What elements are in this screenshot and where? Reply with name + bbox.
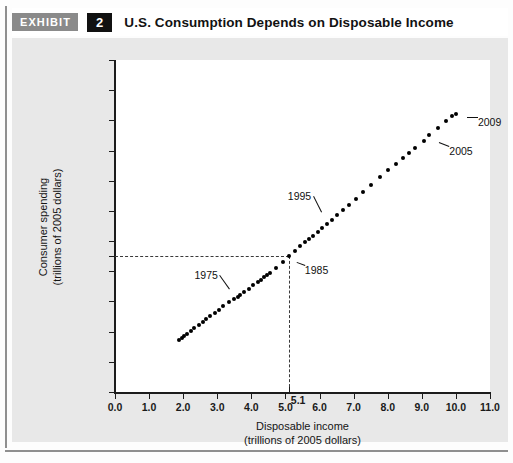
x-tick-label: 1.0 bbox=[142, 401, 157, 413]
annotation-1975: 1975 bbox=[194, 269, 217, 281]
x-tick-label: 11.0 bbox=[480, 401, 500, 413]
data-point bbox=[386, 168, 390, 172]
data-point bbox=[217, 308, 221, 312]
x-tick bbox=[456, 394, 457, 399]
data-point bbox=[427, 133, 431, 137]
y-tick bbox=[109, 120, 114, 121]
x-tick bbox=[217, 394, 218, 399]
data-point bbox=[407, 151, 411, 155]
data-point bbox=[204, 317, 208, 321]
x-axis-title: Disposable income (trillions of 2005 dol… bbox=[115, 419, 490, 447]
x-tick bbox=[354, 394, 355, 399]
y-tick bbox=[109, 90, 114, 91]
annotation-1985: 1985 bbox=[305, 264, 328, 276]
x-tick bbox=[183, 394, 184, 399]
y-tick bbox=[109, 241, 114, 242]
y-axis-title: Consumer spending (trillions of 2005 dol… bbox=[36, 137, 64, 317]
x-tick-label: 2.0 bbox=[176, 401, 191, 413]
data-point bbox=[201, 320, 205, 324]
data-point bbox=[287, 254, 291, 258]
x-tick bbox=[490, 394, 491, 399]
data-point bbox=[436, 126, 440, 130]
data-point bbox=[401, 156, 405, 160]
x-tick bbox=[388, 394, 389, 399]
y-tick bbox=[109, 211, 114, 212]
x-tick bbox=[115, 394, 116, 399]
left-rule bbox=[5, 6, 7, 448]
data-point bbox=[293, 249, 297, 253]
data-point bbox=[247, 287, 251, 291]
data-point bbox=[325, 222, 329, 226]
page-title: U.S. Consumption Depends on Disposable I… bbox=[124, 15, 453, 30]
y-axis-title-sub: (trillions of 2005 dollars) bbox=[51, 169, 63, 286]
data-point bbox=[197, 323, 201, 327]
x-tick-label: 9.0 bbox=[415, 401, 430, 413]
data-point bbox=[422, 139, 426, 143]
data-point bbox=[221, 304, 225, 308]
x-tick-label-5-1: 5.1 bbox=[291, 394, 306, 406]
data-point bbox=[354, 197, 358, 201]
data-point bbox=[227, 300, 231, 304]
x-tick bbox=[422, 394, 423, 399]
data-point bbox=[341, 208, 345, 212]
exhibit-number-badge: 2 bbox=[87, 13, 112, 32]
y-tick bbox=[109, 392, 114, 393]
data-point bbox=[369, 183, 373, 187]
y-axis-line bbox=[114, 60, 116, 393]
x-tick bbox=[251, 394, 252, 399]
data-point bbox=[454, 112, 458, 116]
data-point bbox=[303, 240, 307, 244]
data-point bbox=[378, 175, 382, 179]
data-point bbox=[413, 146, 417, 150]
data-point bbox=[330, 218, 334, 222]
data-point bbox=[394, 162, 398, 166]
annotation-leader-2009 bbox=[467, 117, 478, 118]
data-point bbox=[268, 271, 272, 275]
horizontal-reference-line bbox=[115, 256, 289, 257]
plot-canvas bbox=[115, 60, 490, 392]
data-point bbox=[320, 226, 324, 230]
x-axis-title-main: Disposable income bbox=[256, 420, 349, 432]
bottom-rule bbox=[5, 450, 508, 452]
y-axis-title-main: Consumer spending bbox=[37, 178, 49, 276]
annotation-1995: 1995 bbox=[288, 190, 311, 202]
x-tick-label: 3.0 bbox=[210, 401, 225, 413]
x-tick-label: 0.0 bbox=[108, 401, 123, 413]
data-point bbox=[347, 203, 351, 207]
data-point bbox=[335, 213, 339, 217]
data-point bbox=[316, 230, 320, 234]
data-point bbox=[311, 234, 315, 238]
x-tick bbox=[285, 394, 286, 399]
data-point bbox=[361, 190, 365, 194]
x-tick-label: 4.0 bbox=[244, 401, 259, 413]
chart-panel: 0.01.02.03.04.05.06.07.08.09.010.011.0 0… bbox=[12, 38, 508, 442]
vertical-reference-line bbox=[289, 256, 290, 392]
data-point bbox=[274, 266, 278, 270]
x-tick-label: 8.0 bbox=[380, 401, 395, 413]
y-tick bbox=[109, 332, 114, 333]
x-tick-label: 10.0 bbox=[446, 401, 466, 413]
annotation-2005: 2005 bbox=[449, 145, 472, 157]
y-tick bbox=[109, 271, 114, 272]
exhibit-header: EXHIBIT 2 U.S. Consumption Depends on Di… bbox=[12, 8, 508, 36]
y-tick bbox=[109, 60, 114, 61]
y-tick bbox=[109, 362, 114, 363]
exhibit-badge: EXHIBIT bbox=[12, 13, 78, 31]
data-point bbox=[307, 237, 311, 241]
x-tick-5-1 bbox=[289, 387, 290, 393]
x-tick-label: 6.0 bbox=[312, 401, 327, 413]
data-point bbox=[208, 314, 212, 318]
data-point bbox=[281, 260, 285, 264]
annotation-2009: 2009 bbox=[478, 116, 501, 128]
x-tick-label: 7.0 bbox=[346, 401, 361, 413]
data-point bbox=[251, 283, 255, 287]
y-tick bbox=[109, 181, 114, 182]
y-tick-4-5 bbox=[109, 256, 114, 257]
x-axis-title-sub: (trillions of 2005 dollars) bbox=[244, 434, 361, 446]
x-tick bbox=[320, 394, 321, 399]
data-point bbox=[213, 311, 217, 315]
data-point bbox=[444, 119, 448, 123]
exhibit-figure: EXHIBIT 2 U.S. Consumption Depends on Di… bbox=[0, 0, 513, 463]
data-point bbox=[242, 290, 246, 294]
data-point bbox=[189, 329, 193, 333]
